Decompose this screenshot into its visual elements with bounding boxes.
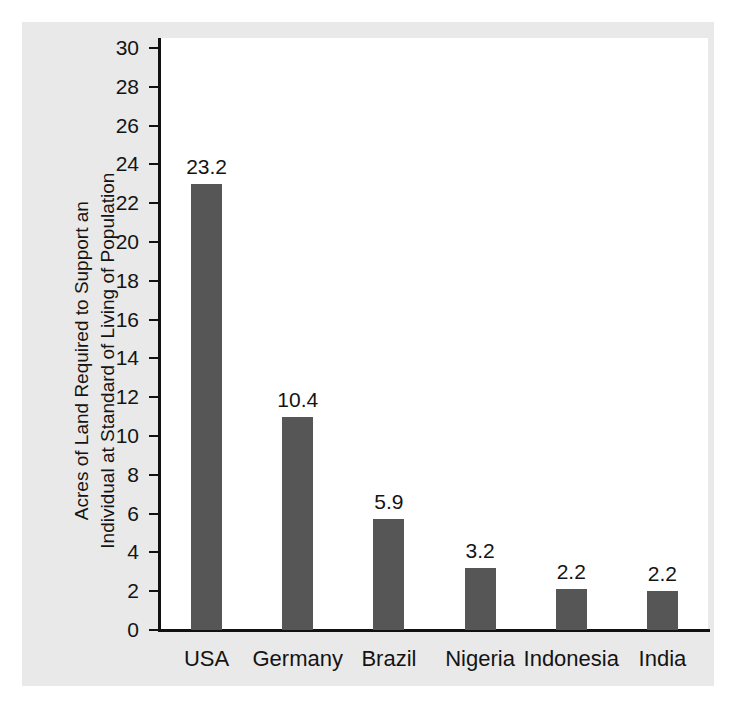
y-axis-tick: [149, 319, 160, 321]
y-axis-title: Acres of Land Required to Support an Ind…: [69, 61, 120, 661]
y-axis-tick: [149, 280, 160, 282]
y-axis-tick: [149, 241, 160, 243]
y-axis-tick: [149, 202, 160, 204]
x-axis-tick-label: India: [592, 648, 732, 670]
y-axis-tick: [149, 629, 160, 631]
bar-value-label: 2.2: [526, 561, 616, 582]
y-axis-tick: [149, 163, 160, 165]
bar-value-label: 2.2: [617, 563, 707, 584]
y-axis-tick-label: 30: [93, 37, 139, 58]
y-axis-tick: [149, 125, 160, 127]
bar: [282, 417, 313, 630]
y-axis-tick: [149, 435, 160, 437]
y-axis-tick: [149, 396, 160, 398]
y-axis-tick: [149, 590, 160, 592]
bar: [647, 591, 678, 630]
x-axis-line: [158, 629, 710, 632]
y-axis-line: [158, 38, 161, 632]
bar-value-label: 3.2: [435, 540, 525, 561]
y-axis-tick: [149, 86, 160, 88]
y-axis-title-line-2: Individual at Standard of Living of Popu…: [95, 61, 121, 661]
bar: [373, 519, 404, 630]
bar: [556, 589, 587, 630]
y-axis-tick: [149, 513, 160, 515]
y-axis-tick: [149, 47, 160, 49]
figure-root: 302826242220181614121086420 23.210.45.93…: [0, 0, 736, 708]
y-axis-title-line-1: Acres of Land Required to Support an: [69, 61, 95, 661]
bar-value-label: 10.4: [253, 389, 343, 410]
y-axis-tick: [149, 551, 160, 553]
bar-value-label: 23.2: [162, 156, 252, 177]
bar: [191, 184, 222, 630]
y-axis-tick: [149, 357, 160, 359]
y-axis-tick: [149, 474, 160, 476]
bar-value-label: 5.9: [344, 491, 434, 512]
bar: [465, 568, 496, 630]
